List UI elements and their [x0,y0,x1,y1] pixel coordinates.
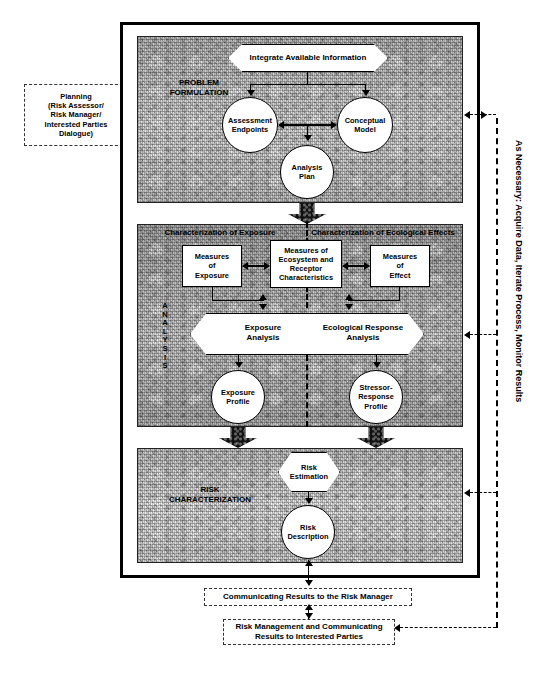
analysis-plan-line-1: Analysis [292,163,323,172]
integrate-arrow-left [247,90,255,96]
measures-of-effect-line-2: of [396,261,403,270]
measures-of-effect-line-1: Measures [383,252,418,261]
integrate-split-bar [250,84,366,85]
rail-connector-2-arrow-left [464,331,470,339]
exposure-analysis-line-1: Exposure [215,323,311,333]
management-up-arrow [305,604,313,610]
analysis-center-divider-bottom [306,355,308,427]
risk-management-line-2: Results to Interested Parties [255,632,363,642]
exposure-analysis-label: Exposure Analysis [215,323,311,343]
measures-of-ecosystem-line-1: Measures of [284,246,328,255]
risk-characterization-label-line-1: RISK [155,485,265,495]
conceptual-model-circle: Conceptual Model [337,97,393,153]
as-necessary-label: As Necessary: Acquire Data, Iterate Proc… [514,140,524,402]
bracket-left-arrow-up [259,294,267,300]
integrate-available-information-hexagon: Integrate Available Information [228,44,388,72]
ecological-response-analysis-label: Ecological Response Analysis [310,323,416,343]
exposure-analysis-line-2: Analysis [215,333,311,343]
ecological-response-analysis-line-1: Ecological Response [310,323,416,333]
measures-of-effect-box: Measures of Effect [370,245,430,287]
bracket-left-drop [212,287,213,301]
bracket-right-arrow-down [345,304,353,310]
communicating-down-arrow [305,580,313,586]
rail-connector-3-line [470,492,496,493]
ecological-response-analysis-line-2: Analysis [310,333,416,343]
planning-box: Planning (Risk Assessor/ Risk Manager/ I… [24,84,128,146]
risk-estimation-line-1: Risk [301,463,317,472]
measures-of-ecosystem-line-3: Receptor [290,264,322,273]
bracket-left-arrow-down [259,304,267,310]
planning-line-4: Interested Parties [45,120,108,129]
ecosystem-effect-arrow-left [342,262,348,270]
planning-line-3: Risk Manager/ [51,110,102,119]
measures-of-exposure-line-3: Exposure [195,271,229,280]
characterization-of-exposure-heading: Characterization of Exposure [145,228,295,238]
risk-characterization-label: RISK CHARACTERIZATION [155,485,265,504]
measures-of-ecosystem-box: Measures of Ecosystem and Receptor Chara… [270,240,342,288]
integrate-available-information-label: Integrate Available Information [250,53,367,63]
measures-of-exposure-line-1: Measures [195,252,230,261]
stressor-response-profile-circle: Stressor- Response Profile [349,370,403,424]
rail-bottom-line [400,627,496,628]
bracket-left-bar [212,300,264,301]
analysis-center-divider-mid [306,286,308,308]
analysis-plan-arrow [304,135,312,141]
measures-of-ecosystem-line-4: Characteristics [279,273,333,282]
assessment-endpoints-line-2: Endpoints [232,125,269,134]
problem-formulation-label: PROBLEM FORMULATION [158,78,240,97]
analysis-plan-circle: Analysis Plan [280,145,334,199]
characterization-of-ecological-effects-heading: Characterization of Ecological Effects [305,228,461,238]
right-rail-dashed-line [496,118,498,628]
planning-line-5: Dialogue) [59,129,93,138]
assessment-endpoints-line-1: Assessment [228,116,272,125]
planning-line-1: Planning [60,92,92,101]
conceptual-model-line-2: Model [354,125,376,134]
ecosystem-effect-link [348,265,364,266]
risk-management-line-1: Risk Management and Communicating [235,622,382,632]
risk-characterization-label-line-2: CHARACTERIZATION [155,495,265,505]
exposure-ecosystem-arrow-right [264,262,270,270]
exposure-profile-circle: Exposure Profile [211,370,265,424]
bracket-right-drop [399,287,400,301]
stressor-response-profile-line-2: Response [358,392,394,401]
risk-estimation-arrow [305,498,313,504]
risk-description-up-arrow [305,560,313,566]
analysis-letter-8: S [160,362,170,371]
measures-of-exposure-line-2: of [208,261,215,270]
measures-of-effect-line-3: Effect [390,271,411,280]
risk-management-box: Risk Management and Communicating Result… [223,619,395,645]
risk-description-line-1: Risk [300,523,316,532]
risk-estimation-line-2: Estimation [290,472,328,481]
problem-formulation-label-line-1: PROBLEM [158,78,240,88]
communicating-results-label: Communicating Results to the Risk Manage… [223,592,393,602]
exposure-profile-line-2: Profile [226,397,249,406]
exposure-profile-line-1: Exposure [221,388,255,397]
exposure-ecosystem-link [248,265,264,266]
risk-description-circle: Risk Description [281,505,335,559]
stressor-response-profile-line-1: Stressor- [360,383,393,392]
stressor-profile-arrow [373,362,381,368]
conceptual-model-line-1: Conceptual [345,116,386,125]
rail-connector-1-arrow-left [464,111,470,119]
integrate-arrow-right [362,90,370,96]
ecosystem-effect-arrow-right [364,262,370,270]
bracket-right-arrow-up [345,294,353,300]
endpoints-model-arrow-right [331,121,337,129]
analysis-section-label: A N A L Y S I S [160,302,170,371]
problem-formulation-label-line-2: FORMULATION [158,88,240,98]
risk-description-line-2: Description [287,532,328,541]
planning-line-2: (Risk Assessor/ [48,101,104,110]
assessment-endpoints-circle: Assessment Endpoints [222,97,278,153]
exposure-ecosystem-arrow-left [242,262,248,270]
exposure-profile-arrow [235,362,243,368]
rail-connector-1-arrow-right [481,111,487,119]
rail-connector-2-line [470,334,496,335]
analysis-plan-line-2: Plan [299,172,315,181]
endpoints-model-arrow-left [278,121,284,129]
bracket-right-bar [348,300,400,301]
measures-of-exposure-box: Measures of Exposure [182,245,242,287]
rail-connector-3-arrow-left [464,489,470,497]
stressor-response-profile-line-3: Profile [364,402,387,411]
measures-of-ecosystem-line-2: Ecosystem and [279,255,334,264]
